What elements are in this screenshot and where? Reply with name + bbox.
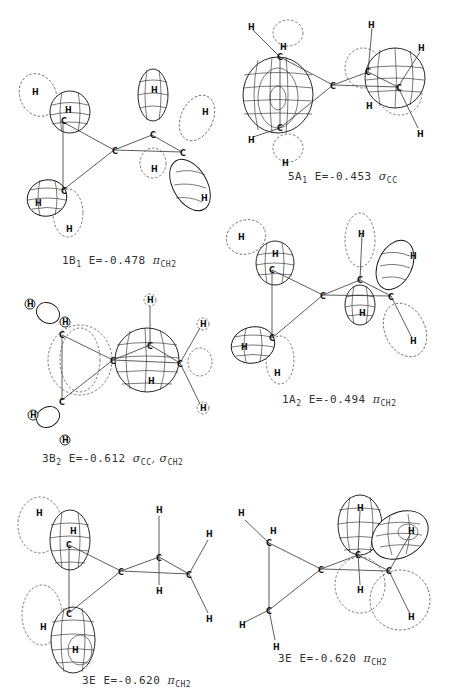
hydrogen-label: H [238, 509, 245, 518]
hydrogen-label: H [358, 230, 365, 239]
orbital-panel-5a1: C C C C C H H H H H H H H 5A1 E=-0.453 σ… [220, 0, 450, 200]
orbital-subscript: CH2 [371, 658, 387, 667]
orbital-type-2: , σ [151, 452, 167, 465]
carbon-label: C [59, 331, 65, 340]
hydrogen-label: H [72, 646, 79, 655]
hydrogen-label: H [148, 377, 155, 386]
carbon-label: C [277, 53, 283, 62]
hydrogen-label: H [408, 527, 415, 536]
orbital-caption-1a2: 1A2 E=-0.494 πCH2 [282, 393, 397, 408]
hydrogen-label: H [62, 318, 69, 327]
carbon-label: C [330, 82, 336, 91]
orbital-caption-3b2: 3B2 E=-0.612 σCC, σCH2 [42, 452, 183, 467]
carbon-label: C [266, 539, 272, 548]
symmetry-label: 3E [278, 652, 292, 665]
hydrogen-label: H [30, 411, 37, 420]
energy-value: E=-0.620 [299, 652, 356, 665]
hydrogen-label: H [359, 309, 366, 318]
hydrogen-label: H [62, 436, 69, 445]
energy-value: E=-0.494 [309, 393, 366, 406]
carbon-label: C [110, 357, 116, 366]
orbital-panel-3e-right: C C C C C H H H H H H H H 3E E=-0.620 πC… [220, 480, 450, 696]
hydrogen-label: H [66, 225, 73, 234]
hydrogen-label: H [273, 643, 280, 652]
hydrogen-label: H [410, 337, 417, 346]
orbital-type: π [373, 393, 381, 406]
orbital-caption-3e-right: 3E E=-0.620 πCH2 [278, 652, 387, 667]
carbon-label: C [320, 292, 326, 301]
carbon-label: C [156, 554, 162, 563]
hydrogen-label: H [151, 86, 158, 95]
hydrogen-label: H [408, 613, 415, 622]
symmetry-subscript: 1 [76, 260, 81, 269]
orbital-caption-3e-left: 3E E=-0.620 πCH2 [82, 674, 191, 689]
hydrogen-label: H [368, 21, 375, 30]
hydrogen-label: H [156, 587, 163, 596]
hydrogen-label: H [200, 404, 207, 413]
hydrogen-label: H [27, 300, 34, 309]
carbon-label: C [186, 571, 192, 580]
orbital-panel-1a2: C C C C C H H H H H H H H 1A2 E=-0.494 π… [220, 210, 450, 430]
orbital-panel-3b2: C C C C C H H H H H H H H 3B2 E=-0.612 σ… [0, 280, 230, 480]
carbon-label: C [318, 566, 324, 575]
carbon-label: C [112, 147, 118, 156]
orbital-subscript: CH2 [381, 399, 397, 408]
symmetry-label: 5A [288, 170, 302, 183]
orbital-panel-3e-left: C C C C C H H H H H H H H 3E E=-0.620 πC… [0, 480, 230, 696]
carbon-label: C [177, 360, 183, 369]
hydrogen-label: H [270, 527, 277, 536]
orbital-subscript-2: CH2 [167, 458, 183, 467]
carbon-label: C [150, 131, 156, 140]
hydrogen-label: H [417, 130, 424, 139]
hydrogen-label: H [366, 102, 373, 111]
orbital-caption-1b1: 1B1 E=-0.478 πCH2 [62, 254, 177, 269]
carbon-label: C [396, 84, 402, 93]
symmetry-label: 1A [282, 393, 296, 406]
hydrogen-label: H [206, 615, 213, 624]
carbon-label: C [59, 398, 65, 407]
hydrogen-label: H [248, 136, 255, 145]
hydrogen-label: H [357, 504, 364, 513]
hydrogen-label: H [280, 43, 287, 52]
hydrogen-label: H [238, 233, 245, 242]
hydrogen-label: H [40, 623, 47, 632]
hydrogen-label: H [35, 199, 42, 208]
hydrogen-label: H [282, 159, 289, 168]
carbon-label: C [269, 266, 275, 275]
orbital-diagram-3e-left: C C C C C H H H H H H H H [0, 480, 230, 696]
carbon-label: C [66, 610, 72, 619]
hydrogen-label: H [241, 343, 248, 352]
hydrogen-label: H [239, 621, 246, 630]
hydrogen-label: H [202, 108, 209, 117]
orbital-type: σ [379, 170, 387, 183]
energy-value: E=-0.620 [103, 674, 160, 687]
energy-value: E=-0.453 [315, 170, 372, 183]
orbital-caption-5a1: 5A1 E=-0.453 σCC [288, 170, 397, 185]
orbital-panel-1b1: C C C C C H H H H H H H H 1B1 E=-0.478 π… [0, 0, 220, 280]
hydrogen-label: H [248, 23, 255, 32]
orbital-subscript: CC [387, 176, 398, 185]
hydrogen-label: H [200, 320, 207, 329]
hydrogen-label: H [65, 106, 72, 115]
carbon-label: C [66, 541, 72, 550]
hydrogen-label: H [418, 44, 425, 53]
hydrogen-label: H [70, 527, 77, 536]
energy-value: E=-0.478 [89, 254, 146, 267]
symmetry-label: 3E [82, 674, 96, 687]
orbital-subscript: CC [141, 458, 152, 467]
symmetry-label: 3B [42, 452, 56, 465]
carbon-label: C [277, 124, 283, 133]
hydrogen-label: H [206, 530, 213, 539]
orbital-subscript: CH2 [161, 260, 177, 269]
hydrogen-label: H [151, 165, 158, 174]
carbon-label: C [118, 568, 124, 577]
symmetry-label: 1B [62, 254, 76, 267]
carbon-label: C [269, 334, 275, 343]
hydrogen-label: H [147, 296, 154, 305]
carbon-label: C [61, 187, 67, 196]
hydrogen-label: H [357, 586, 364, 595]
orbital-subscript: CH2 [175, 680, 191, 689]
hydrogen-label: H [201, 194, 208, 203]
hydrogen-label: H [156, 506, 163, 515]
symmetry-subscript: 2 [296, 399, 301, 408]
